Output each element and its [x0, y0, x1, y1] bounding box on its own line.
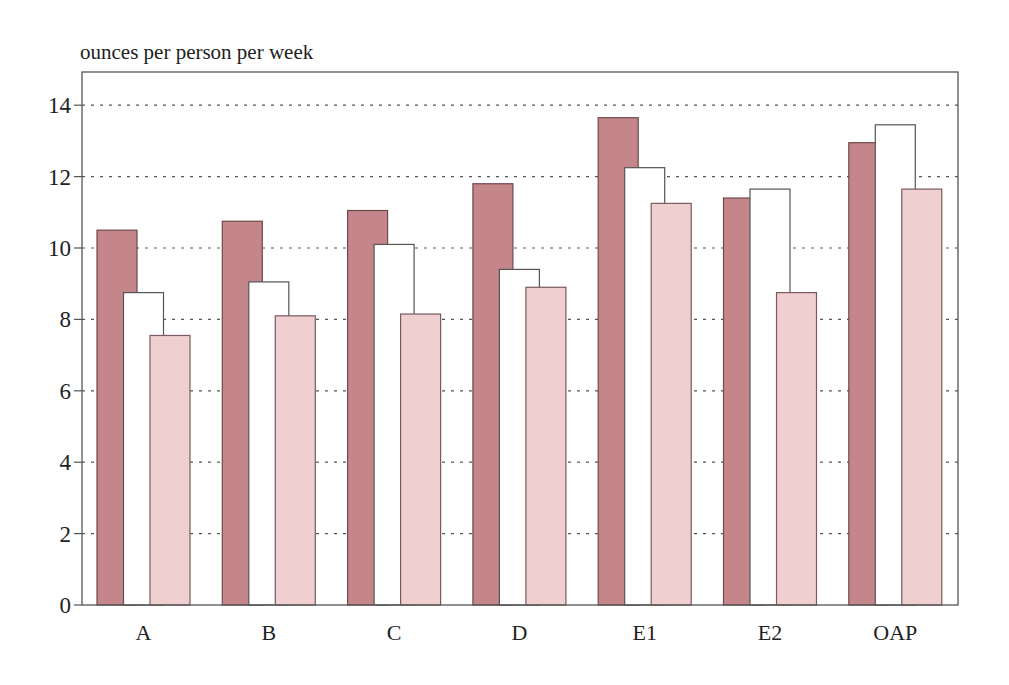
- bars: [97, 118, 942, 605]
- bar: [526, 287, 566, 605]
- y-tick-label: 12: [48, 165, 71, 190]
- bar: [150, 335, 190, 605]
- y-tick-label: 0: [60, 593, 72, 618]
- bar: [902, 189, 942, 605]
- y-tick-label: 2: [60, 522, 72, 547]
- x-tick-label: E2: [758, 620, 782, 645]
- y-tick-label: 6: [60, 379, 72, 404]
- x-tick-label: B: [261, 620, 276, 645]
- x-tick-label: OAP: [873, 620, 917, 645]
- bar-chart: 02468101214 ABCDE1E2OAP: [0, 0, 1009, 685]
- x-tick-label: E1: [632, 620, 656, 645]
- bar: [777, 293, 817, 605]
- bar: [275, 316, 315, 605]
- y-tick-label: 14: [48, 93, 72, 118]
- x-axis: ABCDE1E2OAP: [136, 620, 918, 645]
- bar: [651, 203, 691, 605]
- y-tick-label: 4: [60, 450, 72, 475]
- x-tick-label: A: [136, 620, 152, 645]
- y-tick-label: 10: [48, 236, 71, 261]
- bar: [401, 314, 441, 605]
- y-tick-label: 8: [60, 307, 72, 332]
- x-tick-label: C: [387, 620, 402, 645]
- x-tick-label: D: [511, 620, 527, 645]
- y-axis: 02468101214: [48, 93, 82, 618]
